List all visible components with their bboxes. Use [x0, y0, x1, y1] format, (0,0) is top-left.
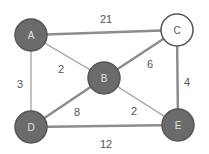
node-label: E — [175, 120, 182, 131]
edge-a-c — [31, 30, 177, 35]
node-label: A — [28, 30, 35, 41]
edge-weight-label: 21 — [100, 13, 112, 25]
edge-weight-label: 2 — [58, 63, 64, 75]
node-c: C — [161, 14, 193, 46]
node-d: D — [15, 111, 47, 143]
node-label: D — [27, 122, 34, 133]
edge-weight-label: 2 — [131, 105, 137, 117]
edge-weight-label: 6 — [147, 58, 153, 70]
node-label: B — [101, 73, 108, 84]
edge-weight-label: 8 — [74, 106, 80, 118]
edge-weight-label: 4 — [184, 76, 190, 88]
node-e: E — [162, 109, 194, 141]
edge-d-e — [31, 125, 178, 127]
edge-weight-label: 3 — [17, 78, 23, 90]
node-b: B — [88, 62, 120, 94]
weighted-graph-diagram: 2123648212 ACBDE — [0, 0, 209, 154]
node-a: A — [15, 19, 47, 51]
node-label: C — [173, 25, 180, 36]
edge-weight-label: 12 — [100, 138, 112, 150]
